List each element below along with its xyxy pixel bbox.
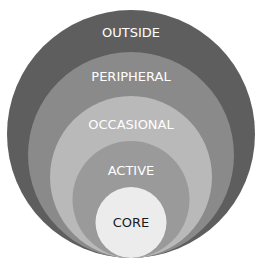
nested-circles-diagram: OUTSIDE PERIPHERAL OCCASIONAL ACTIVE COR… (0, 0, 264, 268)
label-peripheral: PERIPHERAL (91, 69, 171, 84)
label-active: ACTIVE (108, 163, 155, 178)
label-core: CORE (113, 215, 150, 230)
label-occasional: OCCASIONAL (88, 117, 174, 132)
label-outside: OUTSIDE (102, 25, 160, 40)
